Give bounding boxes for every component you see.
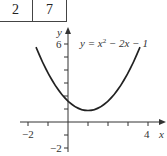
y-axis-arrow-icon	[65, 27, 71, 34]
y-min-label: −2	[50, 142, 62, 154]
y-max-label: 6	[56, 38, 62, 50]
equation-label: y = x2 − 2x − 1	[79, 37, 148, 49]
x-axis-label: x	[158, 128, 164, 140]
x-axis-arrow-icon	[159, 119, 166, 125]
y-ticks	[64, 44, 68, 148]
x-max-label: 4	[144, 128, 150, 140]
x-min-label: −2	[22, 128, 34, 140]
x-ticks	[28, 122, 148, 126]
parabola-curve	[36, 47, 140, 110]
y-axis-label: y	[56, 26, 62, 38]
parabola-chart: −2 4 x y 6 −2 y = x2 − 2x − 1	[0, 0, 167, 156]
